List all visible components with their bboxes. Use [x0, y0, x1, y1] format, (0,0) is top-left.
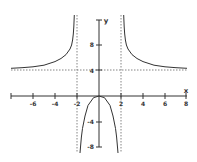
x-tick-label: 2 [119, 100, 123, 107]
x-tick-label: 6 [163, 100, 167, 107]
x-tick-label: 8 [184, 100, 188, 107]
x-tick-label: -6 [30, 100, 37, 107]
curve-left-branch [11, 15, 74, 68]
y-tick-label: -8 [87, 143, 94, 150]
y-tick-label: 8 [90, 41, 94, 48]
x-tick-label: -4 [52, 100, 59, 107]
function-graph: -6 -4 -2 2 4 6 8 8 4 -4 -8 x y [0, 0, 197, 162]
x-tick-label: -2 [74, 100, 81, 107]
curve-right-branch [124, 15, 187, 68]
y-tick-label: 4 [90, 67, 94, 74]
x-axis-label: x [184, 87, 189, 95]
y-axis-label: y [104, 17, 109, 25]
y-tick-label: -4 [87, 118, 94, 125]
x-tick-label: 4 [141, 100, 145, 107]
